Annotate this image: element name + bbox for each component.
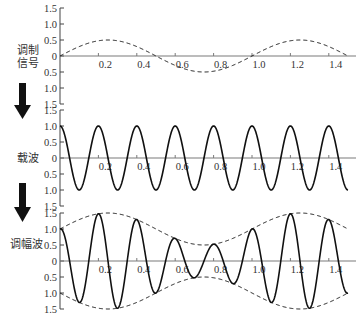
y-tick-label: 1.0 <box>44 224 57 235</box>
y-tick-label: 1.0 <box>44 185 57 196</box>
x-tick-label: 0.6 <box>176 59 189 70</box>
x-tick-label: 1.0 <box>252 59 265 70</box>
carrier-panel: 1.51.00.500.51.01.50.20.40.60.81.01.21.4 <box>44 105 356 212</box>
plot-canvas: 1.51.00.500.51.01.50.20.40.60.81.01.21.4… <box>0 0 360 328</box>
y-tick-label: 0 <box>52 153 57 164</box>
y-tick-label: 0.5 <box>44 169 57 180</box>
arrow-down-icon <box>14 183 31 222</box>
y-tick-label: 1.5 <box>44 3 57 14</box>
x-tick-label: 0.4 <box>137 59 151 70</box>
modulating-signal-panel: 1.51.00.500.51.01.50.20.40.60.81.01.21.4 <box>44 3 356 110</box>
am-modulation-figure: 调制 信号 载波 调幅波 1.51.00.500.51.01.50.20.40.… <box>0 0 360 328</box>
y-tick-label: 0.5 <box>44 272 57 283</box>
y-tick-label: 0 <box>52 51 57 62</box>
y-tick-label: 0.5 <box>44 240 57 251</box>
y-tick-label: 1.0 <box>44 83 57 94</box>
y-tick-label: 0.5 <box>44 35 57 46</box>
arrow-down-icon <box>14 83 31 119</box>
y-tick-label: 1.0 <box>44 121 57 132</box>
x-tick-label: 1.2 <box>291 59 304 70</box>
am-wave-panel: 1.51.00.500.51.01.50.20.40.60.81.01.21.4 <box>44 208 356 315</box>
y-tick-label: 1.0 <box>44 288 57 299</box>
y-tick-label: 0 <box>52 256 57 267</box>
y-tick-label: 1.5 <box>44 208 57 219</box>
y-tick-label: 1.5 <box>44 105 57 116</box>
y-tick-label: 0.5 <box>44 137 57 148</box>
y-tick-label: 0.5 <box>44 67 57 78</box>
y-tick-label: 1.0 <box>44 19 57 30</box>
y-tick-label: 1.5 <box>44 304 57 315</box>
x-tick-label: 0.2 <box>99 59 112 70</box>
x-tick-label: 1.4 <box>329 59 343 70</box>
